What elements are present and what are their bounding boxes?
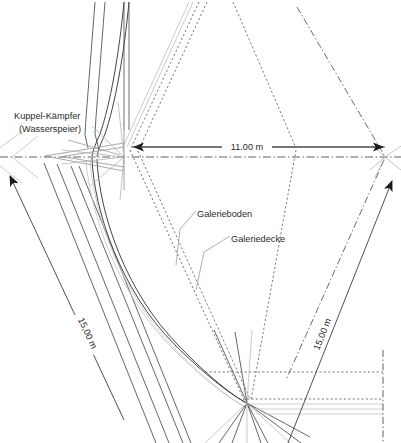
dimension-left-15m: 15,00 m [10,176,124,420]
leader-galeriedecke [196,236,230,290]
label-galerieboden-text: Galerieboden [197,209,252,219]
bottom-vertex-lines [214,330,310,443]
architectural-plan-drawing: 11.00 m 15,00 m 15,00 m Kuppel-Kämpfer (… [0,0,401,443]
axis-dashdot-upper-right [297,7,384,155]
wall-curve-main [92,158,248,404]
plan-svg: 11.00 m 15,00 m 15,00 m Kuppel-Kämpfer (… [0,0,401,443]
gallery-dotted-upper [131,2,207,149]
label-kuppel-kaempfer-line1: Kuppel-Kämpfer [14,111,80,121]
wall-curve-center-left [92,2,129,157]
label-galerieboden: Galerieboden [197,209,252,219]
right-vertex-marks [370,145,401,177]
dimension-label-11m: 11.00 m [231,142,264,152]
leader-kuppel-kaempfer [68,140,120,155]
gallery-light-upper [123,2,193,147]
dimension-horizontal-11m: 11.00 m [132,139,385,154]
wall-lines-lower-left [44,163,191,443]
center-vertical-wall [124,2,129,130]
axis-dashdot-lower-right [286,160,384,380]
bottom-right-dotted-horizontals [205,372,383,399]
bottom-right-light-horizontals [249,404,383,414]
label-galeriedecke-text: Galeriedecke [231,234,285,244]
label-kuppel-kaempfer: Kuppel-Kämpfer (Wasserspeier) [14,111,81,134]
label-galeriedecke: Galeriedecke [231,234,285,244]
gallery-lines-left [86,160,247,408]
hex-dotted-upper-right [233,2,296,148]
label-kuppel-kaempfer-line2: (Wasserspeier) [19,124,81,134]
bottom-vertex-light-lines [205,330,290,443]
hex-dotted-lower-center [130,150,296,400]
